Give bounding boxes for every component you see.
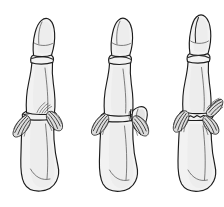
middle-proximal-phalanx: [99, 120, 137, 191]
finger-phalanx-illustration: [0, 0, 224, 207]
anatomical-figure: [0, 0, 224, 207]
middle-middle-phalanx: [104, 63, 133, 117]
right-middle-phalanx: [183, 61, 211, 114]
